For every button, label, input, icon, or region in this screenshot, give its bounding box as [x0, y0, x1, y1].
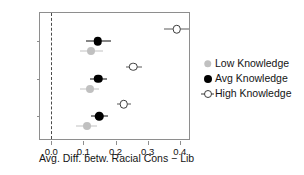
data-point [87, 47, 95, 55]
legend-key-dot [204, 60, 212, 68]
legend-item-high-knowledge: High Knowledge [200, 87, 291, 100]
y-tick [37, 116, 40, 117]
data-point [94, 37, 103, 46]
data-point [129, 62, 138, 71]
data-point [83, 122, 91, 130]
x-tick [148, 141, 149, 145]
data-point [172, 25, 181, 34]
plot-area: 198019761972 0.00.10.20.30.4 [39, 12, 190, 140]
legend-label: Low Knowledge [215, 57, 289, 70]
data-point [94, 74, 103, 83]
x-tick [51, 141, 52, 145]
data-point [119, 100, 128, 109]
legend-key-dot [204, 90, 212, 98]
x-tick [116, 141, 117, 145]
legend-item-avg-knowledge: Avg Knowledge [200, 72, 291, 85]
y-tick [37, 41, 40, 42]
legend-key-dot [204, 75, 212, 83]
x-tick [180, 141, 181, 145]
legend-label: High Knowledge [215, 87, 291, 100]
chart-figure: 198019761972 0.00.10.20.30.4 Avg. Diff. … [0, 0, 304, 175]
x-tick [83, 141, 84, 145]
data-point [86, 85, 94, 93]
avg-knowledge-marker [200, 72, 215, 85]
zero-reference-line [51, 13, 52, 139]
y-tick [37, 79, 40, 80]
x-axis-title: Avg. Diff. betw. Racial Cons − Lib [39, 152, 190, 164]
data-point [95, 112, 104, 121]
high-knowledge-marker [200, 87, 215, 100]
low-knowledge-marker [200, 57, 215, 70]
legend-label: Avg Knowledge [215, 72, 288, 85]
chart-legend: Low KnowledgeAvg KnowledgeHigh Knowledge [200, 57, 291, 102]
legend-item-low-knowledge: Low Knowledge [200, 57, 291, 70]
